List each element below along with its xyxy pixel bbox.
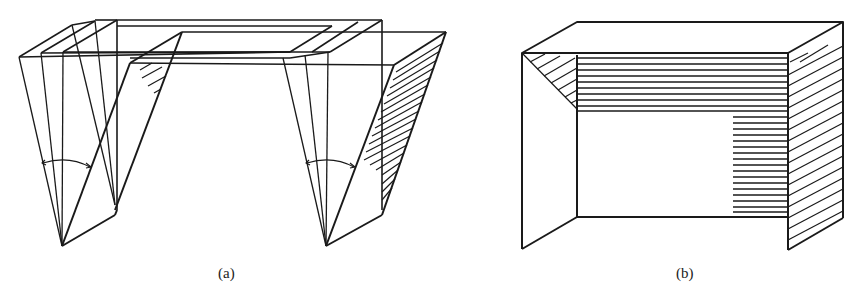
panel-a-drawing [19, 20, 446, 246]
figure-diagram [0, 0, 862, 308]
panel-b-drawing [522, 22, 843, 250]
panel-b-label: (b) [676, 265, 694, 282]
panel-a-label: (a) [218, 265, 235, 282]
